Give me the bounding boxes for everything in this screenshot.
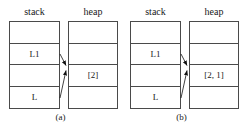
heap-cell (190, 22, 238, 44)
panel-caption: (b) (121, 112, 242, 123)
stack-cell (131, 22, 180, 44)
heap-cell (190, 87, 238, 109)
stack-heap-figure: stack heap L1 L [2] (a) stack (0, 0, 242, 130)
stack-cell-l: L (131, 87, 180, 109)
panel-caption: (a) (0, 112, 121, 123)
stack-cell (131, 65, 180, 87)
panel-a: stack heap L1 L [2] (a) (0, 0, 121, 130)
stack-column-header: stack (130, 6, 181, 18)
stack-cell-l1: L1 (131, 44, 180, 66)
stack-column-header: stack (9, 6, 60, 18)
arrow-l-to-heap (181, 71, 187, 99)
arrow-l1-to-heap (181, 54, 187, 66)
heap-box: [2, 1] (189, 21, 239, 109)
heap-cell-value: [2, 1] (190, 65, 238, 87)
heap-box: [2] (68, 21, 118, 109)
heap-cell (69, 44, 117, 66)
arrow-l-to-heap (60, 71, 66, 99)
arrow-l1-to-heap (60, 54, 66, 66)
heap-column-header: heap (189, 6, 239, 18)
heap-cell (69, 22, 117, 44)
heap-cell (190, 44, 238, 66)
stack-box: L1 L (130, 21, 181, 109)
stack-box: L1 L (9, 21, 60, 109)
heap-column-header: heap (68, 6, 118, 18)
stack-cell (10, 65, 59, 87)
panel-b: stack heap L1 L [2, 1] (b) (121, 0, 242, 130)
heap-cell (69, 87, 117, 109)
stack-cell (10, 22, 59, 44)
heap-cell-value: [2] (69, 65, 117, 87)
stack-cell-l1: L1 (10, 44, 59, 66)
stack-cell-l: L (10, 87, 59, 109)
